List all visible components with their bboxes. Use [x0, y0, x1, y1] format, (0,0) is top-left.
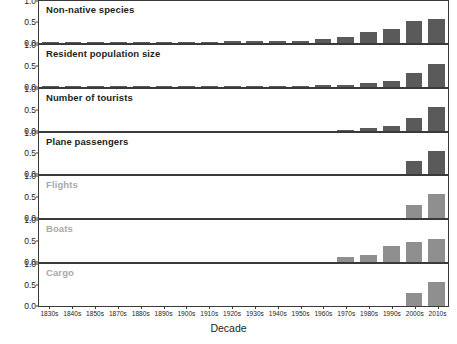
bar: [201, 86, 218, 87]
x-tick-label: 1900s: [177, 311, 195, 318]
bar: [110, 86, 127, 87]
bar: [406, 242, 423, 262]
bar: [337, 257, 354, 262]
bar: [315, 39, 332, 43]
bar: [337, 85, 354, 87]
bar: [383, 246, 400, 262]
x-tick-mark: [164, 307, 165, 309]
bar: [315, 85, 332, 86]
bar: [428, 282, 445, 306]
x-tick-mark: [255, 307, 256, 309]
y-tick-label: 0.5: [24, 281, 36, 290]
y-tick-label: 1.0: [24, 0, 36, 5]
x-tick-label: 1990s: [383, 311, 401, 318]
bar: [110, 42, 127, 43]
x-tick-mark: [278, 307, 279, 309]
x-tick-label: 1870s: [109, 311, 127, 318]
x-tick-mark: [323, 307, 324, 309]
panel-non-native-species: 0.00.51.0Non-native species: [0, 0, 457, 44]
bar: [156, 86, 173, 87]
x-tick-mark: [415, 307, 416, 309]
bar: [428, 194, 445, 218]
bar: [42, 42, 59, 43]
bar: [178, 86, 195, 87]
bar: [269, 41, 286, 43]
bar: [133, 86, 150, 87]
bar: [201, 42, 218, 43]
panel-title: Flights: [46, 179, 78, 190]
x-tick-mark: [209, 307, 210, 309]
y-tick-label: 0.0: [24, 302, 36, 311]
bar: [65, 42, 82, 43]
y-tick-label: 0.5: [24, 193, 36, 202]
x-axis-label: Decade: [0, 322, 457, 334]
y-tick-label: 0.5: [24, 149, 36, 158]
x-tick-mark: [118, 307, 119, 309]
bar: [360, 255, 377, 262]
x-tick-label: 1880s: [132, 311, 150, 318]
bar: [428, 107, 445, 131]
bar: [406, 161, 423, 175]
bar: [406, 73, 423, 87]
x-tick-label: 1910s: [200, 311, 218, 318]
x-tick-label: 1970s: [337, 311, 355, 318]
panel-frame: 0.00.51.0: [38, 219, 449, 263]
bar: [87, 86, 104, 87]
bar: [337, 37, 354, 43]
x-tick-label: 1830s: [40, 311, 58, 318]
bar: [87, 42, 104, 43]
y-tick-label: 1.0: [24, 128, 36, 137]
bar: [428, 239, 445, 262]
bar: [383, 81, 400, 86]
y-tick-label: 0.5: [24, 237, 36, 246]
bar: [133, 42, 150, 43]
small-multiples-bar-chart: 0.00.51.0Non-native species0.00.51.0Resi…: [0, 0, 457, 344]
y-tick-label: 0.5: [24, 62, 36, 71]
y-tick-label: 1.0: [24, 172, 36, 181]
bar: [360, 32, 377, 42]
x-tick-label: 1840s: [63, 311, 81, 318]
panel-title: Cargo: [46, 267, 74, 278]
panel-number-of-tourists: 0.00.51.0Number of tourists: [0, 88, 457, 132]
bar: [246, 86, 263, 87]
bar: [406, 118, 423, 131]
bar: [224, 41, 241, 43]
bar: [224, 86, 241, 87]
x-tick-mark: [49, 307, 50, 309]
y-tick-label: 1.0: [24, 41, 36, 50]
bar: [406, 205, 423, 218]
panel-title: Boats: [46, 223, 73, 234]
panel-title: Number of tourists: [46, 92, 133, 103]
panel-title: Resident population size: [46, 48, 160, 59]
y-tick-label: 1.0: [24, 260, 36, 269]
bar: [428, 64, 445, 87]
x-tick-mark: [72, 307, 73, 309]
x-tick-label: 1960s: [314, 311, 332, 318]
bar: [360, 83, 377, 86]
x-tick-mark: [141, 307, 142, 309]
x-tick-label: 1980s: [360, 311, 378, 318]
x-tick-label: 1930s: [246, 311, 264, 318]
bar: [42, 86, 59, 87]
bar: [383, 126, 400, 131]
bar: [383, 29, 400, 42]
bar: [406, 293, 423, 306]
panel-title: Non-native species: [46, 4, 134, 15]
panel-frame: 0.00.51.0: [38, 175, 449, 219]
bar: [65, 86, 82, 87]
bar: [269, 86, 286, 87]
bar: [292, 86, 309, 87]
panel-cargo: 0.00.51.0Cargo: [0, 263, 457, 307]
bar: [178, 42, 195, 43]
panel-flights: 0.00.51.0Flights: [0, 175, 457, 219]
x-tick-label: 1950s: [292, 311, 310, 318]
y-tick-label: 0.5: [24, 18, 36, 27]
bar: [292, 41, 309, 43]
x-tick-label: 1920s: [223, 311, 241, 318]
plot-area: [39, 220, 448, 262]
bar: [406, 21, 423, 43]
plot-area: [39, 264, 448, 306]
bar: [360, 128, 377, 130]
panel-plane-passengers: 0.00.51.0Plane passengers: [0, 132, 457, 176]
panel-resident-population-size: 0.00.51.0Resident population size: [0, 44, 457, 88]
